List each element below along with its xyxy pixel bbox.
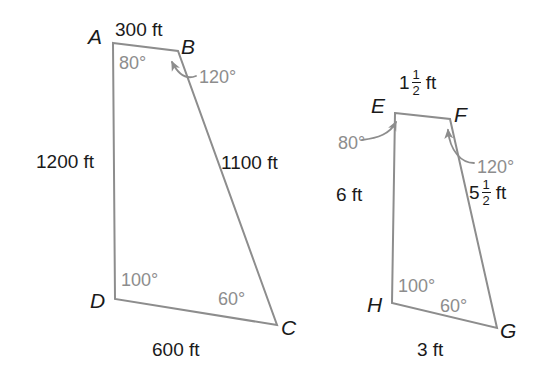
side-label-ef-whole: 1 <box>399 73 410 92</box>
angle-f-leader-arrow <box>448 130 474 163</box>
side-label-fg-numerator: 1 <box>482 178 491 191</box>
vertex-label-h: H <box>367 294 382 315</box>
vertex-label-c: C <box>281 317 296 338</box>
side-label-fg-unit: ft <box>496 183 507 202</box>
side-label-fg-denominator: 2 <box>482 194 491 207</box>
angle-label-d: 100° <box>121 271 158 289</box>
side-label-gh: 3 ft <box>417 340 443 359</box>
side-label-he: 6 ft <box>336 185 362 204</box>
angle-label-e: 80° <box>338 134 365 152</box>
side-label-ef-fraction: 1 2 <box>412 68 421 98</box>
vertex-label-b: B <box>181 36 195 57</box>
angle-label-h: 100° <box>398 277 435 295</box>
angle-label-f: 120° <box>477 158 514 176</box>
side-label-ef-denominator: 2 <box>412 84 421 97</box>
angle-label-b: 120° <box>199 68 236 86</box>
angle-e-leader-arrow <box>362 122 396 140</box>
angle-label-g: 60° <box>440 297 467 315</box>
geometry-figure: A B C D 300 ft 1100 ft 600 ft 1200 ft 80… <box>0 0 555 376</box>
side-label-cd: 600 ft <box>152 340 200 359</box>
vertex-label-e: E <box>371 95 385 116</box>
vertex-label-d: D <box>90 290 105 311</box>
side-label-fg-fraction: 1 2 <box>482 178 491 208</box>
side-label-ab: 300 ft <box>115 20 163 39</box>
vertex-label-f: F <box>454 104 467 125</box>
side-label-ef-unit: ft <box>426 73 437 92</box>
vertex-label-g: G <box>500 320 516 341</box>
side-label-da: 1200 ft <box>36 152 94 171</box>
side-label-ef: 1 1 2 ft <box>399 68 436 98</box>
side-label-fg-whole: 5 <box>469 183 480 202</box>
side-label-fg: 5 1 2 ft <box>469 178 506 208</box>
angle-label-c: 60° <box>218 290 245 308</box>
vertex-label-a: A <box>88 26 102 47</box>
side-label-ef-numerator: 1 <box>412 68 421 81</box>
side-label-bc: 1100 ft <box>221 153 278 172</box>
angle-label-a: 80° <box>119 54 146 72</box>
